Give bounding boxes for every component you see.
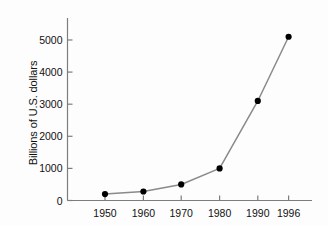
data-point-marker bbox=[102, 191, 108, 197]
x-tick-label: 1980 bbox=[208, 207, 231, 219]
x-axis-ticks bbox=[105, 196, 289, 201]
line-chart: Billions of U.S. dollars 500040003000200… bbox=[0, 0, 328, 226]
y-tick-label: 5000 bbox=[39, 34, 62, 46]
x-tick-label: 1990 bbox=[246, 207, 269, 219]
x-tick-label: 1996 bbox=[277, 207, 300, 219]
data-point-markers bbox=[102, 34, 292, 198]
x-tick-label: 1960 bbox=[132, 207, 155, 219]
y-tick-label: 4000 bbox=[39, 66, 62, 78]
data-point-marker bbox=[217, 165, 223, 171]
data-line-series bbox=[105, 37, 289, 194]
y-tick-label: 1000 bbox=[39, 162, 62, 174]
data-point-marker bbox=[178, 181, 184, 187]
y-tick-label: 3000 bbox=[39, 98, 62, 110]
x-tick-label: 1950 bbox=[93, 207, 116, 219]
data-point-marker bbox=[255, 98, 261, 104]
y-tick-label: 0 bbox=[57, 195, 63, 207]
y-axis-ticks bbox=[68, 40, 73, 201]
x-tick-label: 1970 bbox=[170, 207, 193, 219]
data-point-marker bbox=[140, 188, 146, 194]
data-point-marker bbox=[286, 34, 292, 40]
y-tick-label: 2000 bbox=[39, 130, 62, 142]
